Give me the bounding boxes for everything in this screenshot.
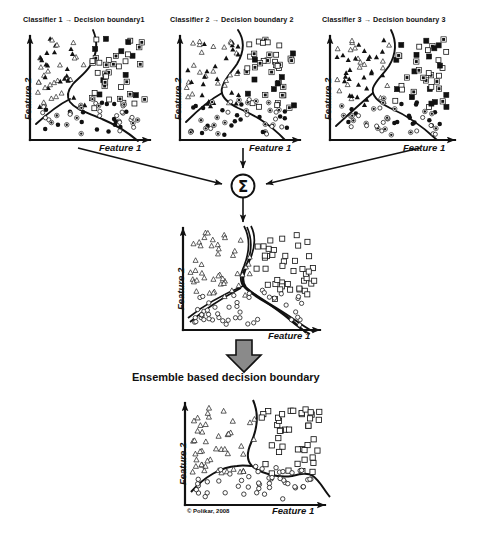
- ensemble-caption: Ensemble based decision boundary: [132, 371, 320, 383]
- arrow-c3-to-sigma: [266, 148, 420, 184]
- copyright-notice: © Polikar, 2008: [187, 508, 229, 514]
- panel-title-classifier-2: Classifier 2 → Decision boundary 2: [170, 15, 294, 24]
- block-arrow-down: [227, 340, 261, 372]
- markers-ensemble: [190, 405, 322, 501]
- panel-classifier-3: [330, 30, 455, 140]
- markers-combined: [188, 230, 317, 327]
- diagram-canvas: .: [0, 0, 488, 536]
- y-axis-label-classifier-1: Feature 2: [22, 78, 33, 120]
- ensemble-diagram-figure: .: [0, 0, 488, 536]
- y-axis-label-combined: Feature 2: [175, 268, 186, 310]
- panel-title-classifier-3: Classifier 3 → Decision boundary 3: [322, 15, 446, 24]
- combiner-node: Σ: [232, 175, 255, 198]
- sigma-symbol: Σ: [238, 178, 248, 196]
- y-axis-label-classifier-2: Feature 2: [172, 78, 183, 120]
- y-axis-label-ensemble: Feature 2: [177, 443, 188, 485]
- panel-combined: [183, 226, 320, 334]
- markers-classifier-3: [335, 37, 449, 137]
- x-axis-label-classifier-2: Feature 1: [249, 142, 291, 153]
- panel-classifier-2: [180, 30, 300, 140]
- panel-ensemble: [185, 400, 330, 505]
- x-axis-label-classifier-3: Feature 1: [403, 142, 445, 153]
- panel-title-classifier-1: Classifier 1 → Decision boundary1: [23, 15, 145, 24]
- x-axis-label-classifier-1: Feature 1: [99, 142, 141, 153]
- markers-classifier-1: [35, 36, 147, 136]
- x-axis-label-ensemble: Feature 1: [272, 505, 314, 516]
- x-axis-label-combined: Feature 1: [268, 330, 310, 341]
- y-axis-label-classifier-3: Feature 2: [322, 78, 333, 120]
- arrow-c1-to-sigma: [78, 148, 222, 184]
- markers-classifier-2: [184, 37, 296, 137]
